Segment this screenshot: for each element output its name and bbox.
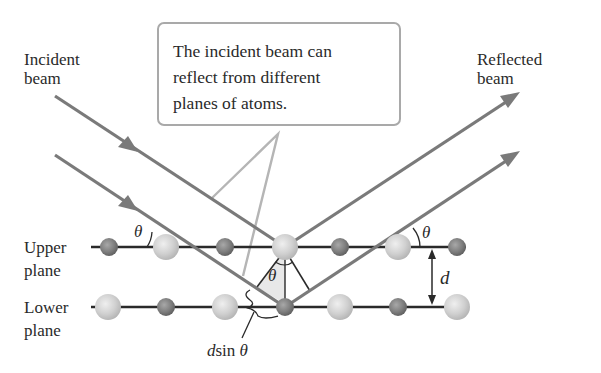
upper-plane-label-line-1: Upper [24, 236, 66, 259]
callout-line-1: The incident beam can [173, 38, 399, 64]
path-difference-label: dsin θ [207, 341, 248, 360]
path-difference-theta: θ [240, 341, 248, 360]
theta-label-reflected: θ [422, 223, 430, 242]
reflected-beam-2 [285, 151, 520, 307]
incident-beam-label-line-1: Incident [24, 50, 80, 69]
angle-arc-reflected [413, 228, 420, 247]
incident-beam-label: Incident beam [24, 50, 80, 88]
upper-plane-label-line-2: plane [24, 259, 66, 282]
reflected-beam-label-line-2: beam [477, 69, 542, 88]
angle-arc-incident [147, 232, 152, 247]
path-difference-d: d [207, 341, 216, 360]
incident-beam-label-line-2: beam [24, 69, 80, 88]
lower-plane-label: Lower plane [24, 296, 68, 342]
lower-plane-label-line-1: Lower [24, 296, 68, 319]
callout-box: The incident beam can reflect from diffe… [157, 22, 401, 126]
theta-label-incident: θ [134, 222, 142, 241]
reflected-beam-label-line-1: Reflected [477, 50, 542, 69]
plane-spacing-label: d [440, 268, 450, 287]
bragg-diagram: The incident beam can reflect from diffe… [0, 0, 601, 373]
plane-spacing-arrow [428, 249, 436, 305]
lower-plane-label-line-2: plane [24, 319, 68, 342]
upper-plane-label: Upper plane [24, 236, 66, 282]
incident-beam-2 [55, 155, 285, 307]
path-difference-sin: sin [216, 341, 236, 360]
theta-label-triangle: θ [268, 266, 276, 285]
reflected-beam-label: Reflected beam [477, 50, 542, 88]
callout-line-2: reflect from different [173, 64, 399, 90]
callout-line-3: planes of atoms. [173, 90, 399, 116]
